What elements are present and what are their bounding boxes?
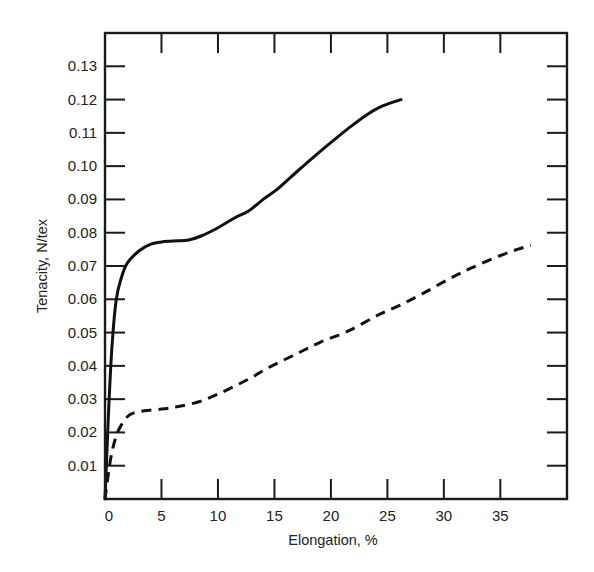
y-tick-label: 0.12 (68, 91, 97, 108)
y-tick-label: 0.13 (68, 57, 97, 74)
y-tick-label: 0.02 (68, 423, 97, 440)
x-tick-label: 35 (492, 507, 509, 524)
y-tick-label: 0.09 (68, 190, 97, 207)
y-tick-label: 0.07 (68, 257, 97, 274)
y-tick-label: 0.05 (68, 324, 97, 341)
y-tick-label: 0.08 (68, 224, 97, 241)
dashed-curve-series (105, 245, 531, 499)
tick-labels: 051015202530350.010.020.030.040.050.060.… (68, 57, 509, 524)
x-tick-label: 30 (436, 507, 453, 524)
x-tick-label: 5 (157, 507, 165, 524)
x-tick-label: 20 (323, 507, 340, 524)
x-tick-label: 10 (210, 507, 227, 524)
solid-curve-series (105, 100, 401, 499)
y-tick-label: 0.03 (68, 390, 97, 407)
y-tick-label: 0.11 (69, 124, 97, 141)
x-tick-label: 15 (266, 507, 283, 524)
tenacity-elongation-chart: 051015202530350.010.020.030.040.050.060.… (0, 0, 594, 572)
x-tick-label: 0 (105, 507, 113, 524)
plot-frame (105, 33, 567, 499)
y-tick-label: 0.06 (68, 290, 97, 307)
tick-marks (105, 33, 567, 499)
y-tick-label: 0.10 (68, 157, 97, 174)
y-tick-label: 0.04 (68, 357, 97, 374)
x-axis-label: Elongation, % (288, 532, 378, 548)
y-tick-label: 0.01 (68, 457, 97, 474)
y-axis-label: Tenacity, N/tex (34, 218, 50, 313)
data-curves (105, 100, 531, 499)
x-tick-label: 25 (379, 507, 396, 524)
